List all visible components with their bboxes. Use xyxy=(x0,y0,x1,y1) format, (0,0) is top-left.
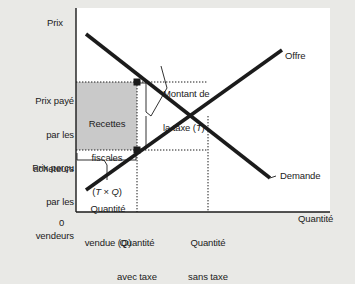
price-sellers-label-line1: Prix perçu xyxy=(4,162,74,173)
tax-amount-label-line2: la taxe (T) xyxy=(163,122,210,133)
price-buyers-point xyxy=(134,79,141,86)
quantity-without-tax-label: Quantité sans taxe xyxy=(176,215,240,284)
tax-revenue-label-line2: fiscales xyxy=(77,152,137,163)
tax-revenue-label-line1: Recettes xyxy=(77,118,137,129)
quantity-with-tax-line2: avec taxe xyxy=(105,271,169,282)
price-buyers-label-line2: par les xyxy=(4,129,74,140)
price-sellers-label-line3: vendeurs xyxy=(4,230,74,241)
price-buyers-label-line1: Prix payé xyxy=(4,95,74,106)
demand-curve-label: Demande xyxy=(280,170,321,181)
quantity-without-tax-line2: sans taxe xyxy=(176,271,240,282)
price-sellers-label-line2: par les xyxy=(4,196,74,207)
tax-amount-bracket xyxy=(140,83,151,149)
quantity-sold-label-line1: Quantité xyxy=(72,203,144,214)
tax-amount-paren-close: ) xyxy=(202,122,205,133)
supply-curve-label: Offre xyxy=(285,50,305,61)
tax-amount-text: la taxe ( xyxy=(163,122,196,133)
demande-leader-line xyxy=(270,176,276,178)
x-axis-label: Quantité xyxy=(298,213,333,224)
quantity-with-tax-line1: Quantité xyxy=(105,237,169,248)
quantity-without-tax-line1: Quantité xyxy=(176,237,240,248)
tax-amount-label-line1: Montant de xyxy=(163,88,210,99)
price-sellers-label: Prix perçu par les vendeurs xyxy=(4,140,74,263)
y-axis-label: Prix xyxy=(47,17,63,28)
quantity-with-tax-label: Quantité avec taxe xyxy=(105,215,169,284)
tax-amount-label: Montant de la taxe (T) xyxy=(163,66,210,156)
